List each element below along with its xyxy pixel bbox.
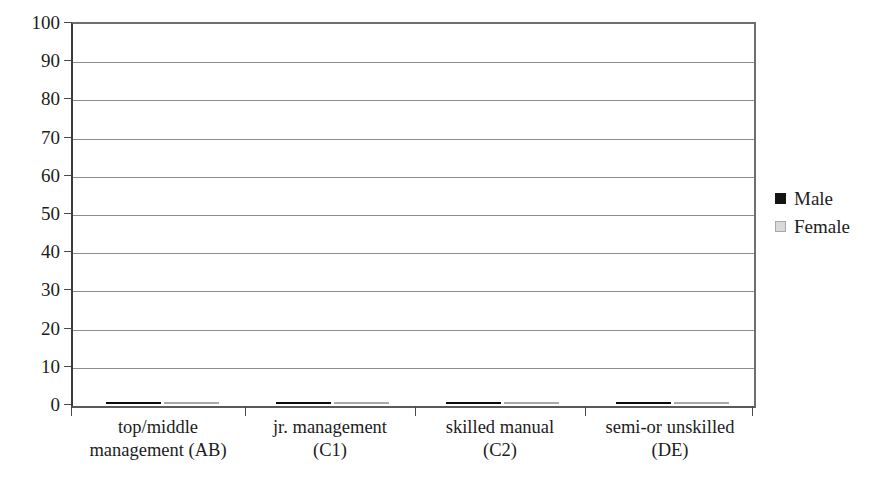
bar-female-jr-management[interactable] bbox=[334, 402, 389, 404]
legend-item-female[interactable]: Female bbox=[775, 212, 879, 240]
bar-male-semi-or-unskilled[interactable] bbox=[616, 402, 671, 404]
legend-label-male: Male bbox=[794, 189, 833, 208]
bar-male-top-middle-management[interactable] bbox=[106, 402, 161, 404]
y-tick-label: 0 bbox=[8, 395, 60, 414]
bar-male-skilled-manual[interactable] bbox=[446, 402, 501, 404]
legend: Male Female bbox=[775, 184, 879, 240]
category-label-line1: top/middle bbox=[71, 416, 245, 439]
category-label-line2: (DE) bbox=[585, 439, 755, 462]
category-label-line1: skilled manual bbox=[415, 416, 585, 439]
bar-male-jr-management[interactable] bbox=[276, 402, 331, 404]
category-label-semi-or-unskilled: semi-or unskilled (DE) bbox=[585, 416, 755, 462]
category-label-top-middle-management: top/middle management (AB) bbox=[71, 416, 245, 462]
category-label-jr-management: jr. management (C1) bbox=[245, 416, 415, 462]
y-tick-label: 30 bbox=[8, 280, 60, 299]
legend-swatch-male-icon bbox=[775, 193, 786, 204]
y-tick-label: 10 bbox=[8, 357, 60, 376]
legend-swatch-female-icon bbox=[775, 221, 786, 232]
y-tick-label: 80 bbox=[8, 89, 60, 108]
bar-female-skilled-manual[interactable] bbox=[504, 402, 559, 404]
bar-female-semi-or-unskilled[interactable] bbox=[674, 402, 729, 404]
bar-female-top-middle-management[interactable] bbox=[164, 402, 219, 404]
category-label-line1: semi-or unskilled bbox=[585, 416, 755, 439]
y-tick-label: 70 bbox=[8, 128, 60, 147]
x-axis-separator-tick bbox=[245, 406, 246, 416]
y-tick-label: 40 bbox=[8, 242, 60, 261]
legend-label-female: Female bbox=[794, 217, 850, 236]
y-tick-label: 60 bbox=[8, 166, 60, 185]
legend-item-male[interactable]: Male bbox=[775, 184, 879, 212]
category-label-line2: (C1) bbox=[245, 439, 415, 462]
x-axis-separator-tick bbox=[585, 406, 586, 416]
y-tick-label: 90 bbox=[8, 51, 60, 70]
category-label-line1: jr. management bbox=[245, 416, 415, 439]
y-tick-label: 20 bbox=[8, 319, 60, 338]
bar-chart: 100 90 80 70 60 50 40 30 20 10 0 bbox=[0, 0, 879, 482]
category-label-line2: management (AB) bbox=[71, 439, 245, 462]
y-tick-label: 50 bbox=[8, 204, 60, 223]
y-tick-label: 100 bbox=[8, 13, 60, 32]
x-axis-separator-tick bbox=[415, 406, 416, 416]
x-axis-tick bbox=[752, 406, 753, 416]
bars-layer bbox=[71, 22, 752, 404]
category-label-line2: (C2) bbox=[415, 439, 585, 462]
x-axis-tick bbox=[71, 406, 72, 416]
y-axis: 100 90 80 70 60 50 40 30 20 10 0 bbox=[0, 0, 60, 482]
category-label-skilled-manual: skilled manual (C2) bbox=[415, 416, 585, 462]
